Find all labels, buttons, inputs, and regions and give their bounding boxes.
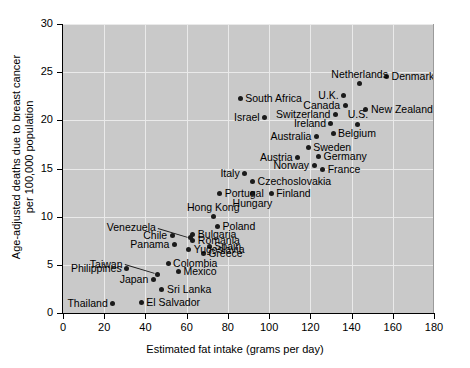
gridline-y-10 [63,217,433,218]
x-tick-180 [434,314,435,319]
y-axis-title: Age-adjusted deaths due to breast cancer… [10,37,36,277]
point-label-thailand: Thailand [67,298,107,309]
point-label-mexico: Mexico [183,266,216,277]
point-label-sweden: Sweden [313,142,351,153]
x-tick-label-180: 180 [425,321,443,333]
point-label-u-k: U.K. [318,90,338,101]
x-tick-label-0: 0 [60,321,66,333]
data-point-taiwan [155,272,160,277]
y-tick-label-25: 25 [41,65,53,77]
gridline-y-15 [63,169,433,170]
x-tick-80 [228,314,229,319]
x-tick-20 [104,314,105,319]
x-tick-label-40: 40 [139,321,151,333]
data-point-belgium [331,131,336,136]
x-tick-160 [393,314,394,319]
data-point-thailand [110,301,115,306]
data-point-italy [242,171,247,176]
point-label-belgium: Belgium [338,128,376,139]
point-label-sri-lanka: Sri Lanka [167,284,211,295]
data-point-finland [269,191,274,196]
x-tick-label-120: 120 [301,321,319,333]
y-tick-5: 5 [57,265,62,266]
data-point-portugal [217,191,222,196]
point-label-hungary: Hungary [233,198,273,209]
y-tick-15: 15 [57,169,62,170]
y-axis-title-line2: per 100,000 population [23,37,36,277]
point-label-hong-kong: Hong Kong [187,202,240,213]
y-tick-0: 0 [57,313,62,314]
data-point-israel [262,115,267,120]
point-label-venezuela: Venezuela [107,222,156,233]
data-point-japan [151,277,156,282]
data-point-bulgaria [190,232,195,237]
data-point-mexico [176,269,181,274]
data-point-ireland [328,121,333,126]
scatter-chart-figure: ThailandEl SalvadorPhilippinesJapanTaiwa… [0,0,470,368]
point-label-el-salvador: El Salvador [146,297,200,308]
y-tick-25: 25 [57,72,62,73]
point-label-denmark: Denmark [392,71,434,82]
point-label-south-africa: South Africa [245,93,302,104]
x-tick-0 [63,314,64,319]
plot-area: ThailandEl SalvadorPhilippinesJapanTaiwa… [63,24,434,313]
gridline-y-30 [63,24,433,25]
data-point-u-k [341,93,346,98]
point-label-australia: Australia [271,131,312,142]
x-tick-label-20: 20 [98,321,110,333]
y-axis-title-line1: Age-adjusted deaths due to breast cancer [10,37,23,277]
point-label-canada: Canada [303,100,340,111]
data-point-u-s [355,122,360,127]
point-label-taiwan: Taiwan [90,259,123,270]
y-tick-label-30: 30 [41,17,53,29]
y-tick-label-5: 5 [47,258,53,270]
x-tick-60 [187,314,188,319]
data-point-france [320,167,325,172]
x-tick-label-60: 60 [181,321,193,333]
point-label-spain: Spain [214,241,241,252]
data-point-yugoslavia [186,247,191,252]
y-tick-10: 10 [57,217,62,218]
data-point-norway [312,163,317,168]
point-label-u-s: U.S. [348,109,368,120]
data-point-south-africa [238,96,243,101]
data-point-sweden [306,145,311,150]
data-point-australia [314,134,319,139]
data-point-panama [172,242,177,247]
data-point-czechoslovakia [250,179,255,184]
point-label-norway: Norway [273,160,309,171]
point-label-finland: Finland [276,188,310,199]
x-tick-label-160: 160 [384,321,402,333]
point-label-new-zealand: New Zealand [371,104,433,115]
x-axis-title: Estimated fat intake (grams per day) [0,343,470,355]
x-tick-140 [352,314,353,319]
data-point-chile [170,233,175,238]
y-tick-label-0: 0 [47,306,53,318]
x-tick-120 [310,314,311,319]
x-axis-line [62,313,435,314]
point-label-italy: Italy [220,168,239,179]
y-tick-30: 30 [57,24,62,25]
data-point-philippines [124,266,129,271]
y-axis-line [62,24,63,314]
x-tick-label-80: 80 [222,321,234,333]
x-tick-label-140: 140 [342,321,360,333]
y-tick-label-20: 20 [41,113,53,125]
point-label-netherlands: Netherlands [331,69,388,80]
data-point-germany [316,154,321,159]
point-label-france: France [328,164,361,175]
y-tick-20: 20 [57,120,62,121]
data-point-hong-kong [211,214,216,219]
x-tick-label-100: 100 [260,321,278,333]
data-point-netherlands [357,81,362,86]
data-point-sri-lanka [159,287,164,292]
x-tick-100 [269,314,270,319]
x-tick-40 [145,314,146,319]
y-tick-label-10: 10 [41,210,53,222]
point-label-israel: Israel [234,112,260,123]
data-point-switzerland [333,112,338,117]
data-point-el-salvador [139,300,144,305]
point-label-poland: Poland [223,221,256,232]
y-tick-label-15: 15 [41,162,53,174]
point-label-czechoslovakia: Czechoslovakia [258,176,332,187]
